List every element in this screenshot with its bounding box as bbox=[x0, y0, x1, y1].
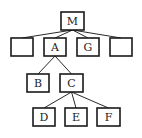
edge-A-C bbox=[55, 56, 72, 74]
edge-A-B bbox=[38, 56, 55, 74]
node-b: B bbox=[27, 74, 49, 92]
node-a: A bbox=[44, 38, 66, 56]
node-g: G bbox=[77, 38, 99, 56]
node-e: E bbox=[65, 108, 87, 126]
node-c: C bbox=[60, 74, 83, 92]
node-f: F bbox=[97, 108, 120, 126]
node-box bbox=[11, 38, 33, 56]
tree-diagram: MAGBCDEF bbox=[0, 0, 142, 138]
node-label: C bbox=[67, 77, 75, 90]
node-blank1 bbox=[11, 38, 33, 56]
node-label: F bbox=[105, 111, 113, 124]
node-d: D bbox=[33, 108, 55, 126]
edge-C-D bbox=[44, 92, 72, 108]
node-label: B bbox=[34, 77, 42, 90]
node-box bbox=[110, 38, 132, 56]
node-label: E bbox=[72, 111, 80, 124]
node-label: G bbox=[84, 41, 93, 54]
node-label: D bbox=[40, 111, 49, 124]
node-blank2 bbox=[110, 38, 132, 56]
node-label: M bbox=[67, 15, 78, 28]
edge-C-E bbox=[72, 92, 77, 108]
tree-nodes: MAGBCDEF bbox=[11, 12, 132, 126]
edge-C-F bbox=[72, 92, 109, 108]
node-m: M bbox=[61, 12, 84, 30]
node-label: A bbox=[50, 41, 60, 54]
tree-edges bbox=[22, 30, 121, 108]
